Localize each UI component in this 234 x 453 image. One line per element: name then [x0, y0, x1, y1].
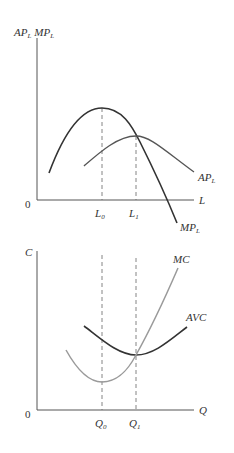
bottom-y-axis-label: C [25, 246, 33, 258]
mp-curve-label: MPL [179, 221, 200, 235]
mp-curve [49, 108, 177, 223]
top-x-axis-label: L [198, 194, 205, 206]
top-y-axis-label: APLMPL [13, 26, 54, 40]
q0-tick-label: Q0 [95, 417, 107, 431]
avc-curve [84, 326, 187, 355]
top-origin-label: 0 [25, 198, 31, 210]
bottom-panel: C 0 Q Q0 Q1 MC AVC [25, 246, 207, 431]
top-panel: APLMPL 0 L L0 L1 APL MPL [13, 26, 215, 235]
avc-curve-label: AVC [185, 311, 207, 323]
l0-tick-label: L0 [94, 207, 105, 221]
mc-curve-label: MC [172, 253, 190, 265]
cost-product-diagram: APLMPL 0 L L0 L1 APL MPL C [0, 0, 234, 453]
bottom-origin-label: 0 [25, 408, 31, 420]
bottom-x-axis-label: Q [199, 404, 207, 416]
l1-tick-label: L1 [128, 207, 139, 221]
mc-curve [66, 268, 178, 382]
ap-curve-label: APL [197, 171, 215, 185]
q1-tick-label: Q1 [129, 417, 140, 431]
